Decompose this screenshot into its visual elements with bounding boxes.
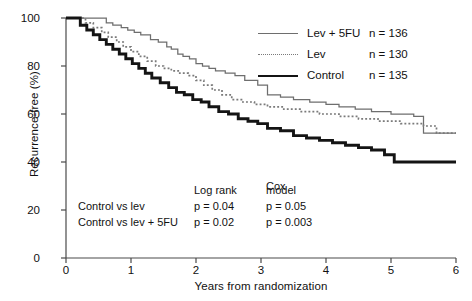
y-axis-label: Recurrence-free (%) xyxy=(28,34,40,214)
legend-item-control: Control n = 135 xyxy=(258,64,408,85)
y-tick-100: 100 xyxy=(14,13,40,23)
x-axis-label: Years from randomization xyxy=(66,280,456,292)
stats-row-control-vs-lev: Control vs lev p = 0.04 p = 0.05 xyxy=(78,196,336,212)
x-tick-5: 5 xyxy=(379,264,403,276)
x-tick-3: 3 xyxy=(249,264,273,276)
stats-header-logrank: Log rank xyxy=(194,184,266,196)
stats-cox-2: p = 0.003 xyxy=(266,216,336,228)
stats-header-cox-line2: model xyxy=(266,184,336,196)
stats-table: Log rank model Control vs lev p = 0.04 p… xyxy=(78,180,336,228)
stats-logrank-1: p = 0.04 xyxy=(194,200,266,212)
x-tick-0: 0 xyxy=(54,264,78,276)
legend-line-thin-solid-icon xyxy=(258,28,298,38)
legend-n-control: n = 135 xyxy=(369,69,408,81)
legend-label-control: Control xyxy=(307,69,369,81)
stats-row-control-vs-lev-5fu: Control vs lev + 5FU p = 0.02 p = 0.003 xyxy=(78,212,336,228)
legend-line-thick-solid-icon xyxy=(258,70,298,80)
x-tick-4: 4 xyxy=(314,264,338,276)
kaplan-meier-figure: 100 80 60 40 20 0 0 1 2 3 4 5 6 Recurren… xyxy=(0,0,472,301)
stats-comparison-2: Control vs lev + 5FU xyxy=(78,216,194,228)
legend-item-lev: Lev n = 130 xyxy=(258,43,408,64)
legend-label-lev: Lev xyxy=(307,48,369,60)
stats-comparison-1: Control vs lev xyxy=(78,200,194,212)
x-tick-2: 2 xyxy=(184,264,208,276)
legend-item-lev-5fu: Lev + 5FU n = 136 xyxy=(258,22,408,43)
legend-n-lev-5fu: n = 136 xyxy=(369,27,408,39)
legend-n-lev: n = 130 xyxy=(369,48,408,60)
legend: Lev + 5FU n = 136 Lev n = 130 Control n … xyxy=(258,22,408,85)
stats-logrank-2: p = 0.02 xyxy=(194,216,266,228)
legend-label-lev-5fu: Lev + 5FU xyxy=(307,27,369,39)
y-tick-0: 0 xyxy=(14,253,40,263)
x-tick-6: 6 xyxy=(444,264,468,276)
stats-header-row: Log rank model xyxy=(78,180,336,196)
stats-cox-1: p = 0.05 xyxy=(266,200,336,212)
x-tick-1: 1 xyxy=(119,264,143,276)
legend-line-dotted-icon xyxy=(258,49,298,59)
